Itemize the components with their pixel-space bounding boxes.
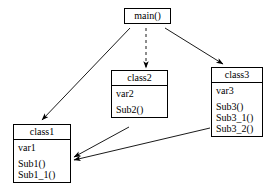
node-main[interactable]: main()	[124, 8, 171, 24]
operation-item: Sub3()	[216, 101, 259, 112]
edge-main-to-class3	[165, 28, 223, 64]
operation-item: Sub3_1()	[216, 112, 259, 123]
attribute-item: var2	[116, 88, 164, 99]
node-class2[interactable]: class2 var2 Sub2()	[111, 70, 168, 118]
node-class3[interactable]: class3 var3 Sub3() Sub3_1() Sub3_2()	[211, 67, 263, 137]
node-class1[interactable]: class1 var1 Sub1() Sub1_1()	[13, 124, 71, 183]
operation-item: Sub1()	[18, 158, 67, 169]
node-class3-attributes: var3 Sub3() Sub3_1() Sub3_2()	[212, 83, 262, 136]
attribute-item: var1	[18, 142, 67, 153]
edge-class2-to-class1	[74, 127, 129, 157]
node-class1-attributes: var1 Sub1() Sub1_1()	[14, 140, 70, 182]
node-class3-title: class3	[212, 68, 262, 82]
attribute-item: var3	[216, 85, 259, 96]
diagram-canvas: main() class2 var2 Sub2() class3 var3 Su…	[0, 0, 273, 196]
operation-item: Sub1_1()	[18, 169, 67, 180]
operation-item: Sub3_2()	[216, 123, 259, 134]
operation-item: Sub2()	[116, 104, 164, 115]
node-class2-attributes: var2 Sub2()	[112, 86, 167, 117]
node-class2-title: class2	[112, 71, 167, 85]
edge-class3-to-class1	[74, 128, 210, 160]
node-main-title: main()	[125, 9, 170, 23]
node-class1-title: class1	[14, 125, 70, 139]
